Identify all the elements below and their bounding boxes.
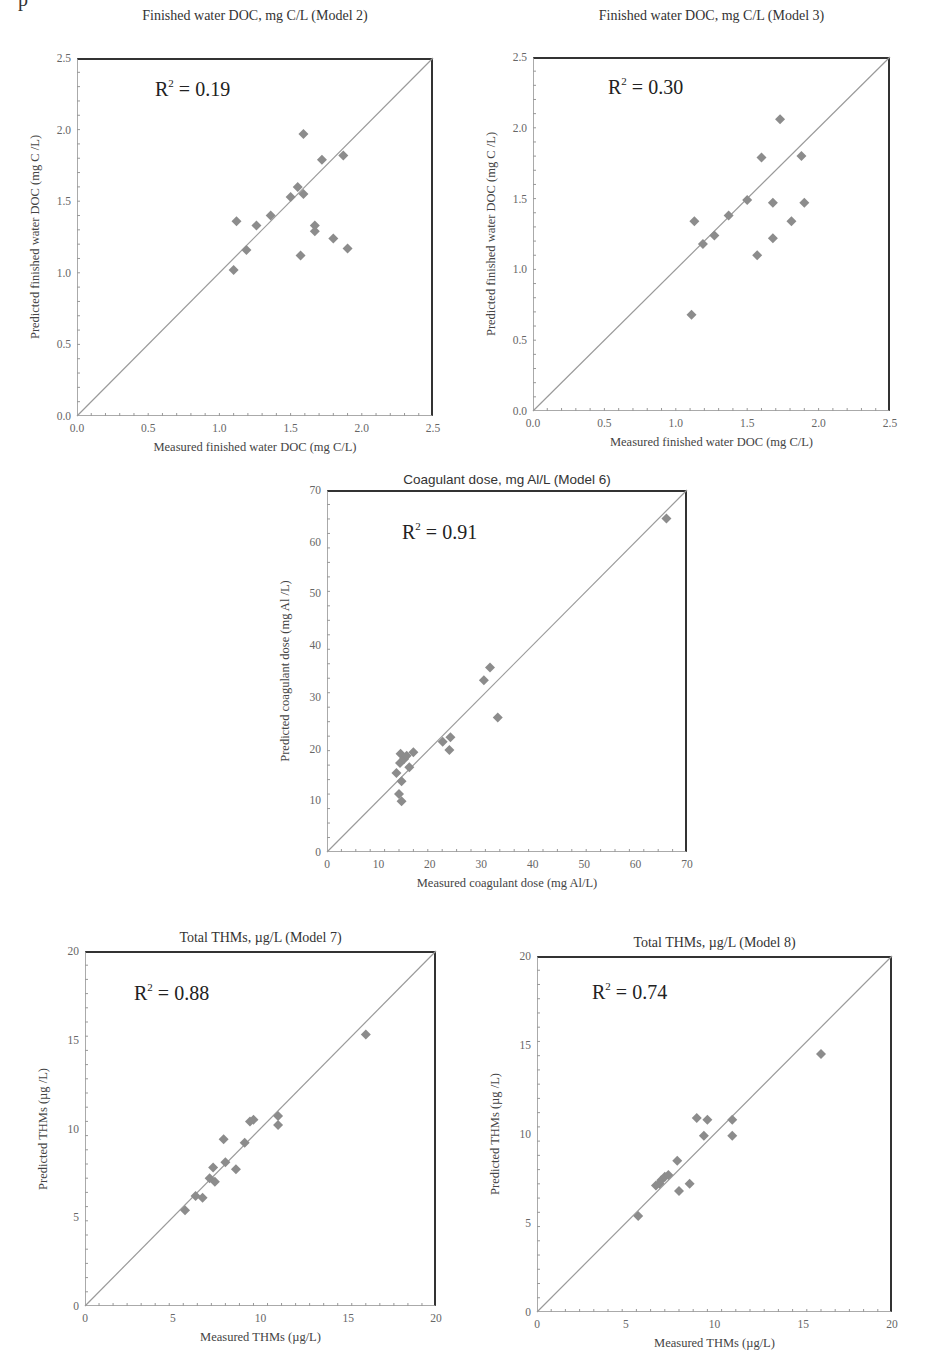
r-squared-value: 0.30 bbox=[648, 76, 683, 98]
one-to-one-line bbox=[327, 490, 687, 852]
r-squared-value: 0.91 bbox=[442, 521, 477, 543]
y-tick-label: 0 bbox=[73, 1300, 79, 1312]
y-tick-label: 2.0 bbox=[513, 122, 527, 134]
one-to-one-line bbox=[537, 956, 892, 1312]
data-point-diamond bbox=[317, 155, 327, 165]
y-tick-label: 0 bbox=[525, 1306, 531, 1318]
data-point-diamond bbox=[816, 1049, 826, 1059]
r-squared-annotation: R2 = 0.88 bbox=[134, 981, 209, 1005]
y-tick-label: 60 bbox=[310, 536, 322, 548]
data-point-diamond bbox=[191, 1191, 201, 1201]
data-point-diamond bbox=[273, 1111, 283, 1121]
x-tick-label: 0.0 bbox=[70, 422, 84, 434]
chart-title: Finished water DOC, mg C/L (Model 2) bbox=[142, 8, 367, 24]
y-tick-label: 10 bbox=[310, 794, 322, 806]
y-tick-label: 40 bbox=[310, 639, 322, 651]
x-tick-label: 0.0 bbox=[526, 417, 540, 429]
data-point-diamond bbox=[328, 233, 338, 243]
y-tick-label: 1.0 bbox=[57, 267, 71, 279]
data-point-diamond bbox=[219, 1134, 229, 1144]
y-tick-label: 0.0 bbox=[513, 405, 527, 417]
data-point-diamond bbox=[229, 265, 239, 275]
data-point-diamond bbox=[752, 250, 762, 260]
x-axis-label: Measured finished water DOC (mg C/L) bbox=[153, 440, 356, 455]
data-point-diamond bbox=[231, 216, 241, 226]
y-tick-label: 20 bbox=[520, 950, 532, 962]
data-point-diamond bbox=[674, 1186, 684, 1196]
x-tick-label: 1.5 bbox=[740, 417, 754, 429]
x-tick-label: 0.5 bbox=[141, 422, 155, 434]
x-tick-label: 70 bbox=[681, 858, 693, 870]
data-point-diamond bbox=[273, 1120, 283, 1130]
data-point-diamond bbox=[251, 221, 261, 231]
data-point-diamond bbox=[727, 1115, 737, 1125]
x-tick-label: 2.0 bbox=[355, 422, 369, 434]
chart-title: Finished water DOC, mg C/L (Model 3) bbox=[599, 8, 824, 24]
y-tick-label: 20 bbox=[68, 945, 80, 957]
data-point-diamond bbox=[240, 1138, 250, 1148]
data-point-diamond bbox=[391, 768, 401, 778]
y-tick-label: 2.5 bbox=[57, 52, 71, 64]
r-squared-value: 0.19 bbox=[195, 78, 230, 100]
data-point-diamond bbox=[786, 216, 796, 226]
data-point-diamond bbox=[742, 195, 752, 205]
y-tick-label: 10 bbox=[520, 1128, 532, 1140]
x-tick-label: 20 bbox=[424, 858, 436, 870]
data-point-diamond bbox=[799, 198, 809, 208]
plot-area bbox=[537, 956, 892, 1312]
data-point-diamond bbox=[689, 216, 699, 226]
x-tick-label: 1.0 bbox=[212, 422, 226, 434]
y-tick-label: 0.0 bbox=[57, 410, 71, 422]
y-axis-label: Predicted coagulant dose (mg Al /L) bbox=[278, 580, 293, 762]
data-point-diamond bbox=[310, 226, 320, 236]
data-point-diamond bbox=[699, 1131, 709, 1141]
data-point-diamond bbox=[702, 1115, 712, 1125]
x-tick-label: 0 bbox=[82, 1312, 88, 1324]
data-point-diamond bbox=[493, 713, 503, 723]
data-point-diamond bbox=[485, 662, 495, 672]
y-tick-label: 2.5 bbox=[513, 51, 527, 63]
data-point-diamond bbox=[479, 675, 489, 685]
x-tick-label: 0.5 bbox=[597, 417, 611, 429]
data-point-diamond bbox=[208, 1163, 218, 1173]
data-point-diamond bbox=[727, 1131, 737, 1141]
data-point-diamond bbox=[231, 1164, 241, 1174]
x-tick-label: 2.5 bbox=[426, 422, 440, 434]
r-squared-annotation: R2 = 0.19 bbox=[155, 77, 230, 101]
data-point-diamond bbox=[672, 1156, 682, 1166]
y-tick-label: 2.0 bbox=[57, 124, 71, 136]
data-point-diamond bbox=[266, 211, 276, 221]
data-point-diamond bbox=[444, 745, 454, 755]
r-squared-value: 0.88 bbox=[174, 982, 209, 1004]
chart-title: Total THMs, µg/L (Model 7) bbox=[179, 930, 341, 946]
x-tick-label: 0 bbox=[324, 858, 330, 870]
x-tick-label: 10 bbox=[373, 858, 385, 870]
plot-area bbox=[327, 490, 687, 852]
data-point-diamond bbox=[768, 198, 778, 208]
x-tick-label: 50 bbox=[578, 858, 590, 870]
r-squared-annotation: R2 = 0.91 bbox=[402, 520, 477, 544]
data-point-diamond bbox=[296, 251, 306, 261]
chart-title: Coagulant dose, mg Al/L (Model 6) bbox=[403, 472, 610, 487]
y-tick-label: 20 bbox=[310, 743, 322, 755]
y-axis-label: Predicted finished water DOC (mg C /L) bbox=[28, 135, 43, 339]
y-tick-label: 50 bbox=[310, 587, 322, 599]
x-tick-label: 2.5 bbox=[883, 417, 897, 429]
y-axis-label: Predicted THMs (µg /L) bbox=[488, 1073, 503, 1195]
data-point-diamond bbox=[709, 230, 719, 240]
x-tick-label: 15 bbox=[798, 1318, 810, 1330]
data-point-diamond bbox=[687, 310, 697, 320]
y-tick-label: 15 bbox=[68, 1034, 80, 1046]
data-point-diamond bbox=[397, 776, 407, 786]
y-axis-label: Predicted THMs (µg /L) bbox=[36, 1068, 51, 1190]
x-tick-label: 1.0 bbox=[669, 417, 683, 429]
data-point-diamond bbox=[445, 732, 455, 742]
data-point-diamond bbox=[698, 239, 708, 249]
r-squared-annotation: R2 = 0.30 bbox=[608, 75, 683, 99]
y-tick-label: 0.5 bbox=[513, 334, 527, 346]
y-tick-label: 1.0 bbox=[513, 263, 527, 275]
x-tick-label: 10 bbox=[709, 1318, 721, 1330]
data-point-diamond bbox=[180, 1205, 190, 1215]
x-tick-label: 20 bbox=[886, 1318, 898, 1330]
data-point-diamond bbox=[692, 1113, 702, 1123]
